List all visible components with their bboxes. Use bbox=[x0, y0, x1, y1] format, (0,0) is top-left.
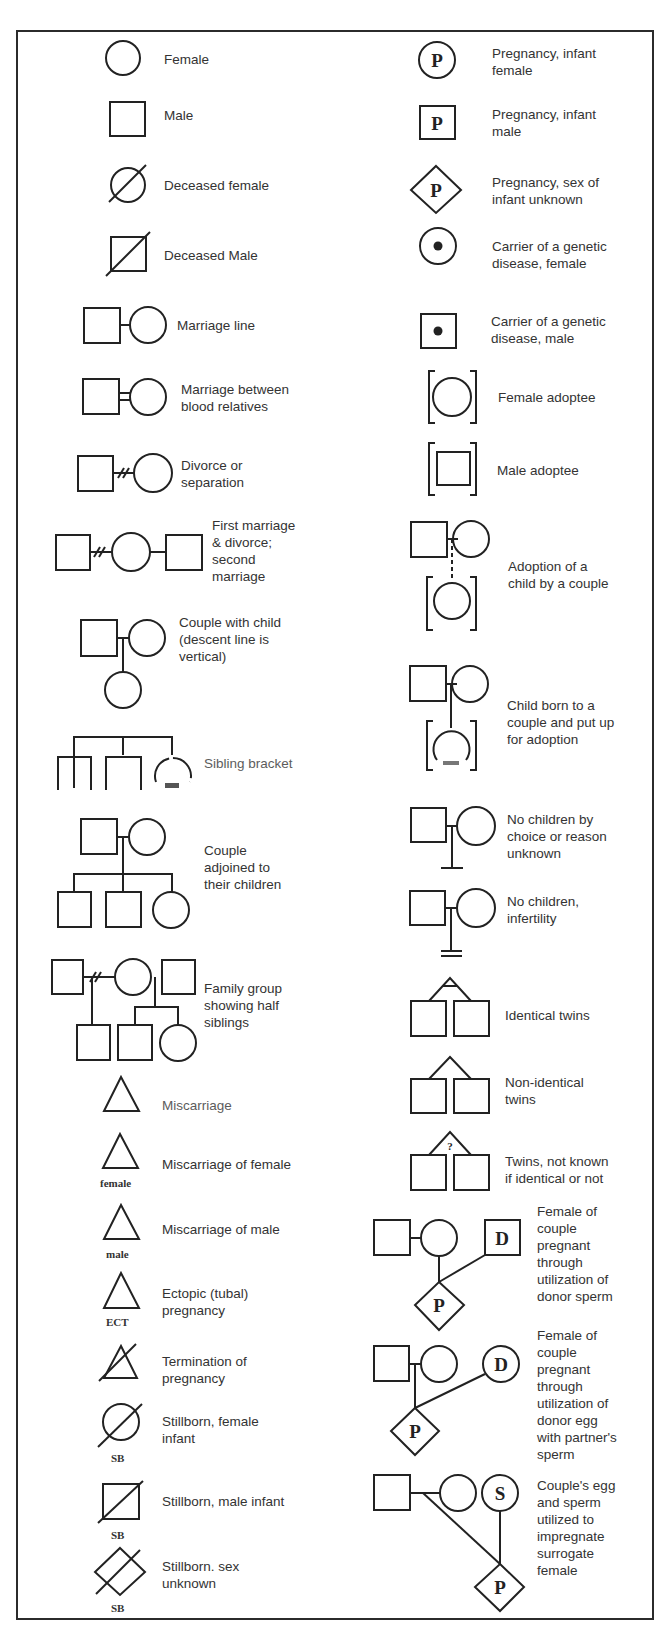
svg-text:P: P bbox=[430, 180, 442, 201]
label-ectopic: Ectopic (tubal) pregnancy bbox=[162, 1285, 248, 1319]
svg-text:P: P bbox=[431, 113, 443, 134]
label-identical-twins: Identical twins bbox=[505, 1007, 590, 1024]
label-deceased-male: Deceased Male bbox=[164, 247, 258, 264]
label-carrier-male: Carrier of a genetic disease, male bbox=[491, 313, 606, 347]
label-male-adoptee: Male adoptee bbox=[497, 462, 579, 479]
sublabel-sb-unknown: SB bbox=[111, 1600, 124, 1617]
svg-text:D: D bbox=[494, 1354, 508, 1375]
label-marriage-line: Marriage line bbox=[177, 317, 255, 334]
label-first-marriage: First marriage & divorce; second marriag… bbox=[212, 517, 295, 585]
sublabel-male: male bbox=[106, 1246, 129, 1263]
label-couple-with-child: Couple with child (descent line is verti… bbox=[179, 614, 281, 665]
label-divorce: Divorce or separation bbox=[181, 457, 244, 491]
svg-text:P: P bbox=[431, 50, 443, 71]
label-miscarriage-male: Miscarriage of male bbox=[162, 1221, 280, 1238]
label-deceased-female: Deceased female bbox=[164, 177, 269, 194]
label-no-children-infertility: No children, infertility bbox=[507, 893, 579, 927]
label-carrier-female: Carrier of a genetic disease, female bbox=[492, 238, 607, 272]
label-sibling-bracket: Sibling bracket bbox=[204, 755, 293, 772]
label-pregnancy-male: Pregnancy, infant male bbox=[492, 106, 596, 140]
label-twins-unknown: Twins, not known if identical or not bbox=[505, 1153, 609, 1187]
label-termination: Termination of pregnancy bbox=[162, 1353, 247, 1387]
label-put-up-for-adoption: Child born to a couple and put up for ad… bbox=[507, 697, 614, 748]
label-consanguineous: Marriage between blood relatives bbox=[181, 381, 289, 415]
label-stillborn-male: Stillborn, male infant bbox=[162, 1493, 284, 1510]
svg-text:?: ? bbox=[447, 1140, 453, 1152]
label-couple-children: Couple adjoined to their children bbox=[204, 842, 281, 893]
sublabel-female: female bbox=[100, 1175, 131, 1192]
sublabel-sb-female: SB bbox=[111, 1450, 124, 1467]
label-miscarriage-female: Miscarriage of female bbox=[162, 1156, 291, 1173]
svg-text:S: S bbox=[495, 1483, 506, 1504]
sublabel-ect: ECT bbox=[106, 1314, 129, 1331]
svg-text:P: P bbox=[494, 1577, 506, 1598]
svg-text:P: P bbox=[409, 1421, 421, 1442]
label-nonidentical-twins: Non-identical twins bbox=[505, 1074, 584, 1108]
svg-text:D: D bbox=[495, 1228, 509, 1249]
label-half-siblings: Family group showing half siblings bbox=[204, 980, 282, 1031]
label-pregnancy-female: Pregnancy, infant female bbox=[492, 45, 596, 79]
label-female-adoptee: Female adoptee bbox=[498, 389, 596, 406]
label-adoption-by-couple: Adoption of a child by a couple bbox=[508, 558, 609, 592]
label-donor-sperm: Female of couple pregnant through utiliz… bbox=[537, 1203, 613, 1305]
label-stillborn-female: Stillborn, female infant bbox=[162, 1413, 259, 1447]
sublabel-sb-male: SB bbox=[111, 1527, 124, 1544]
label-surrogate: Couple's egg and sperm utilized to impre… bbox=[537, 1477, 615, 1579]
label-male: Male bbox=[164, 107, 193, 124]
label-stillborn-unknown: Stillborn. sex unknown bbox=[162, 1558, 239, 1592]
label-no-children-choice: No children by choice or reason unknown bbox=[507, 811, 607, 862]
label-pregnancy-unknown: Pregnancy, sex of infant unknown bbox=[492, 174, 599, 208]
svg-text:P: P bbox=[433, 1295, 445, 1316]
label-donor-egg: Female of couple pregnant through utiliz… bbox=[537, 1327, 617, 1463]
label-miscarriage: Miscarriage bbox=[162, 1097, 232, 1114]
label-female: Female bbox=[164, 51, 209, 68]
